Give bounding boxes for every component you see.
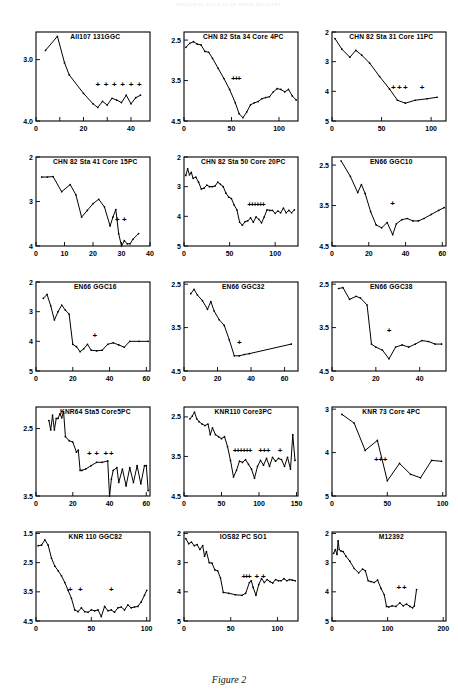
data-point bbox=[281, 459, 283, 461]
data-point bbox=[244, 354, 246, 356]
data-point bbox=[90, 609, 92, 611]
data-point bbox=[106, 104, 108, 106]
x-tick-label: 50 bbox=[378, 125, 386, 132]
data-point bbox=[399, 602, 401, 604]
data-point bbox=[111, 97, 113, 99]
data-point bbox=[391, 605, 393, 607]
x-tick-label: 40 bbox=[146, 250, 154, 257]
data-point bbox=[386, 606, 388, 608]
data-point bbox=[107, 343, 109, 345]
data-point bbox=[84, 611, 86, 613]
data-point bbox=[431, 460, 433, 462]
y-tick-label: 2.5 bbox=[23, 425, 33, 432]
x-tick-label: 100 bbox=[437, 500, 449, 507]
data-point bbox=[341, 414, 343, 416]
data-point bbox=[193, 545, 195, 547]
y-tick-label: 4 bbox=[325, 88, 329, 95]
x-tick-label: 150 bbox=[291, 500, 303, 507]
data-point bbox=[336, 554, 338, 556]
sample-marker: + bbox=[93, 331, 98, 340]
x-tick-label: 40 bbox=[416, 375, 424, 382]
sample-marker: + bbox=[109, 449, 114, 458]
data-point bbox=[124, 240, 126, 242]
data-series-line bbox=[334, 541, 417, 608]
y-tick-label: 2 bbox=[177, 154, 181, 161]
sample-marker: + bbox=[237, 338, 242, 347]
data-point bbox=[92, 103, 94, 105]
data-point bbox=[47, 176, 49, 178]
data-point bbox=[228, 196, 230, 198]
data-point bbox=[253, 102, 255, 104]
data-point bbox=[83, 348, 85, 350]
data-point bbox=[121, 102, 123, 104]
panel-title: EN66 GGC38 bbox=[370, 283, 413, 290]
data-point bbox=[96, 461, 98, 463]
data-point bbox=[395, 346, 397, 348]
chart-svg: 2345050100IOS82 PC SO1+++++ bbox=[158, 518, 304, 643]
sample-marker: + bbox=[261, 200, 266, 209]
data-point bbox=[50, 305, 52, 307]
data-point bbox=[43, 297, 45, 299]
data-point bbox=[416, 589, 418, 591]
data-point bbox=[204, 555, 206, 557]
data-point bbox=[236, 209, 238, 211]
data-point bbox=[284, 465, 286, 467]
data-point bbox=[412, 607, 414, 609]
data-point bbox=[129, 467, 131, 469]
sample-marker: + bbox=[104, 80, 109, 89]
sample-marker: + bbox=[278, 446, 283, 455]
data-point bbox=[117, 607, 119, 609]
data-point bbox=[231, 198, 233, 200]
data-point bbox=[81, 607, 83, 609]
data-point bbox=[213, 310, 215, 312]
data-series-line bbox=[342, 414, 442, 480]
panel-title: CHN 82 Sta 34 Core 4PC bbox=[203, 33, 284, 40]
data-point bbox=[47, 544, 49, 546]
data-point bbox=[54, 319, 56, 321]
chart-svg: 2.53.50204060KNR64 Sta5 Core5PC++++ bbox=[10, 393, 156, 518]
data-point bbox=[200, 188, 202, 190]
chart-svg: 2.53.54.502040EN66 GGC38+ bbox=[306, 268, 452, 393]
data-point bbox=[406, 603, 408, 605]
y-tick-label: 5 bbox=[177, 243, 181, 250]
data-point bbox=[418, 220, 420, 222]
data-point bbox=[280, 580, 282, 582]
plot-frame bbox=[36, 32, 150, 121]
data-point bbox=[286, 580, 288, 582]
data-point bbox=[209, 434, 211, 436]
data-point bbox=[41, 176, 43, 178]
y-tick-label: 3.5 bbox=[23, 588, 33, 595]
data-point bbox=[244, 221, 246, 223]
panel-title: EN66 GGC16 bbox=[74, 283, 117, 290]
x-tick-label: 20 bbox=[365, 250, 373, 257]
x-tick-label: 100 bbox=[273, 125, 285, 132]
data-point bbox=[408, 346, 410, 348]
y-tick-label: 2 bbox=[29, 154, 33, 161]
data-point bbox=[215, 434, 217, 436]
x-tick-label: 40 bbox=[106, 375, 114, 382]
data-point bbox=[334, 38, 336, 40]
data-point bbox=[276, 88, 278, 90]
y-tick-label: 2 bbox=[177, 530, 181, 537]
y-tick-label: 3.5 bbox=[171, 453, 181, 460]
data-point bbox=[295, 99, 297, 101]
data-point bbox=[192, 178, 194, 180]
data-point bbox=[370, 581, 372, 583]
data-series-line bbox=[190, 412, 295, 478]
data-point bbox=[369, 62, 371, 64]
data-point bbox=[238, 355, 240, 357]
x-tick-label: 0 bbox=[182, 500, 186, 507]
data-point bbox=[246, 111, 248, 113]
data-point bbox=[278, 580, 280, 582]
sample-marker: + bbox=[391, 83, 396, 92]
chart-svg: 2.53.54.5050100CHN 82 Sta 34 Core 4PC+++ bbox=[158, 18, 304, 143]
data-point bbox=[290, 468, 292, 470]
chart-svg: 345050100KNR 73 Core 4PC+++ bbox=[306, 393, 452, 518]
chart-panel: 2345050100IOS82 PC SO1+++++ bbox=[158, 518, 304, 643]
data-point bbox=[210, 301, 212, 303]
data-point bbox=[288, 210, 290, 212]
x-tick-label: 0 bbox=[34, 250, 38, 257]
data-point bbox=[379, 76, 381, 78]
data-point bbox=[112, 342, 114, 344]
y-tick-label: 4.5 bbox=[23, 618, 33, 625]
